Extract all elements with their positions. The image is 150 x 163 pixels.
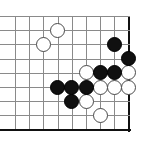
grid-line-horizontal — [0, 16, 130, 17]
go-board-diagram — [0, 0, 150, 163]
white-stone-c3-r1 — [50, 23, 65, 38]
grid-line-horizontal — [0, 115, 130, 116]
black-stone-c6-r4 — [93, 65, 108, 80]
black-stone-c5-r5 — [79, 80, 94, 95]
goban-grid — [0, 0, 150, 163]
black-stone-c4-r6 — [64, 94, 79, 109]
board-edge-line-horizontal — [0, 129, 131, 131]
white-stone-c5-r6 — [79, 94, 94, 109]
white-stone-c5-r4 — [79, 65, 94, 80]
black-stone-c7-r4 — [107, 65, 122, 80]
white-stone-c2-r2 — [36, 37, 51, 52]
white-stone-c8-r5 — [121, 80, 136, 95]
white-stone-c6-r7 — [93, 108, 108, 123]
white-stone-c6-r5 — [93, 80, 108, 95]
black-stone-c3-r5 — [50, 80, 65, 95]
black-stone-c4-r5 — [64, 80, 79, 95]
white-stone-c7-r5 — [107, 80, 122, 95]
black-stone-c8-r3 — [121, 51, 136, 66]
black-stone-c7-r2 — [107, 37, 122, 52]
grid-line-horizontal — [0, 59, 130, 60]
white-stone-c8-r4 — [121, 65, 136, 80]
